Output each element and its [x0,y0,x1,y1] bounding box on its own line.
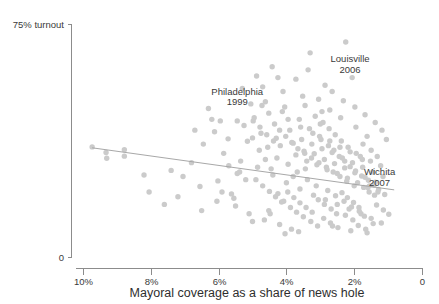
datapoint [235,118,240,123]
datapoint [263,157,268,162]
datapoint [356,223,361,228]
datapoint [322,83,327,88]
datapoint [287,127,292,132]
datapoint [257,124,262,129]
datapoint [296,229,301,234]
datapoint [335,225,340,230]
datapoint [304,158,309,163]
datapoint [284,180,289,185]
datapoint [374,202,379,207]
datapoint [221,151,226,156]
datapoint [250,135,255,140]
datapoint [343,213,348,218]
annotation-label-line1: Louisville [331,53,370,64]
datapoint [250,118,255,123]
datapoint [305,67,310,72]
datapoint [250,219,255,224]
datapoint [309,209,314,214]
datapoint [342,158,347,163]
datapoint [215,178,220,183]
datapoint [316,160,321,165]
datapoint [280,89,285,94]
datapoint [233,203,238,208]
datapoint [201,141,206,146]
datapoint [315,223,320,228]
datapoint [299,137,304,142]
datapoint [328,206,333,211]
datapoint [168,168,173,173]
datapoint [347,149,352,154]
datapoint [273,194,278,199]
annotation-label-line2: 2006 [340,64,361,75]
datapoint [311,192,316,197]
datapoint [334,211,339,216]
datapoint [360,157,365,162]
datapoint [372,192,377,197]
datapoint [297,186,302,191]
datapoint [285,189,290,194]
datapoint [241,123,246,128]
datapoint [373,120,378,125]
datapoint [214,199,219,204]
annotation-label-line2: 1999 [227,96,248,107]
datapoint [329,89,334,94]
datapoint [226,163,231,168]
datapoint [379,220,384,225]
datapoint [298,124,303,129]
datapoint [264,132,269,137]
datapoint [248,101,253,106]
datapoint [339,190,344,195]
datapoint [282,231,287,236]
datapoint [347,164,352,169]
datapoint [278,143,283,148]
datapoint [362,112,367,117]
datapoint [316,97,321,102]
datapoint [288,205,293,210]
datapoint [268,166,273,171]
datapoint [280,109,285,114]
datapoint [189,160,194,165]
datapoint [277,222,282,227]
datapoint [309,141,314,146]
datapoint [277,127,282,132]
datapoint [293,76,298,81]
datapoint [375,154,380,159]
datapoint [356,205,361,210]
datapoint [141,172,146,177]
datapoint [104,156,109,161]
datapoint [308,219,313,224]
datapoint [368,216,373,221]
datapoint [319,109,324,114]
datapoint [379,127,384,132]
datapoint [162,202,167,207]
datapoint [219,189,224,194]
datapoint [309,155,314,160]
datapoint [253,177,258,182]
datapoint [238,158,243,163]
datapoint [209,117,214,122]
datapoint [337,144,342,149]
datapoint [295,169,300,174]
datapoint [345,195,350,200]
datapoint [297,200,302,205]
datapoint [218,118,223,123]
datapoint [146,189,151,194]
datapoint [354,151,359,156]
datapoint [282,104,287,109]
datapoint [269,64,274,69]
scatter-plot: 75% turnout 0 10%8%6%4%2%0 Philadelphia1… [0,0,439,304]
datapoint [384,137,389,142]
datapoint [360,141,365,146]
datapoint [319,146,324,151]
y-axis-top-label: 75% turnout [13,19,65,30]
datapoint [330,169,335,174]
datapoint [353,124,358,129]
datapoint [257,148,262,153]
datapoint [293,152,298,157]
datapoint [122,153,127,158]
datapoint [318,137,323,142]
datapoint [262,217,267,222]
datapoint [289,226,294,231]
datapoint [335,202,340,207]
x-axis-tick-label: 10% [74,276,94,287]
